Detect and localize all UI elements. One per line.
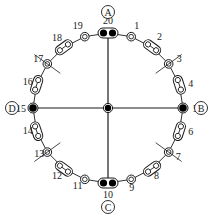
double-hub-core-icon — [109, 29, 116, 36]
node-label-6: 6 — [188, 126, 193, 137]
terminal-c-icon: C — [102, 201, 115, 214]
node-6 — [172, 121, 187, 142]
node-label-11: 11 — [73, 180, 83, 191]
ring-diagram: 1234567891011121314151617181920 ABCD — [0, 0, 216, 218]
terminal-a-icon: A — [102, 6, 115, 19]
node-label-12: 12 — [52, 170, 62, 181]
terminal-label: C — [105, 202, 112, 213]
node-label-16: 16 — [23, 76, 33, 87]
node-label-4: 4 — [188, 78, 193, 89]
node-label-1: 1 — [134, 20, 139, 31]
node-8 — [142, 159, 163, 178]
hub-core-icon — [179, 104, 187, 112]
node-label-17: 17 — [33, 53, 43, 64]
double-hub-core-icon — [100, 29, 107, 36]
ring-inner-icon — [83, 177, 88, 182]
capsule-icon — [142, 159, 163, 178]
node-4 — [172, 74, 187, 95]
node-label-2: 2 — [157, 31, 162, 42]
terminal-d-icon: D — [6, 102, 19, 115]
capsule-icon — [172, 121, 187, 142]
node-label-14: 14 — [23, 125, 33, 136]
terminal-b-icon: B — [195, 102, 208, 115]
ring-inner-icon — [83, 34, 88, 39]
node-label-9: 9 — [129, 182, 134, 193]
node-20 — [98, 28, 118, 38]
hub-core-icon — [29, 104, 37, 112]
node-label-19: 19 — [73, 20, 83, 31]
double-hub-core-icon — [109, 179, 116, 186]
center-hub-core — [105, 105, 111, 111]
terminal-label: D — [8, 103, 15, 114]
node-5 — [178, 103, 188, 113]
capsule-icon — [172, 74, 187, 95]
node-label-13: 13 — [34, 148, 44, 159]
node-label-10: 10 — [103, 189, 113, 200]
node-19 — [81, 32, 90, 41]
node-label-7: 7 — [176, 151, 181, 162]
node-15 — [28, 103, 38, 113]
node-10 — [98, 178, 118, 188]
ring-inner-icon — [129, 177, 134, 182]
node-1 — [127, 32, 136, 41]
double-hub-core-icon — [100, 179, 107, 186]
node-label-8: 8 — [154, 170, 159, 181]
node-label-3: 3 — [177, 53, 182, 64]
ring-inner-icon — [129, 34, 134, 39]
node-label-18: 18 — [52, 32, 62, 43]
terminal-label: A — [104, 7, 112, 18]
terminal-label: B — [198, 103, 205, 114]
